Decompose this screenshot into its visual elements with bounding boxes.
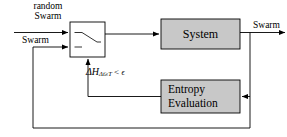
entropy-condition-label: ΔHΔt≥T< ϵ — [86, 67, 125, 78]
random-swarm-label-line2: Swarm — [19, 12, 77, 22]
block-diagram: random Swarm Swarm Swarm System Entropy … — [0, 0, 287, 137]
condition-subscript: Δt≥T — [99, 70, 112, 77]
condition-relation: < — [112, 67, 119, 77]
swarm-input-label: Swarm — [22, 36, 49, 46]
random-swarm-input-label: random Swarm — [19, 2, 77, 22]
entropy-label-line2: Evaluation — [168, 97, 218, 111]
swarm-output-label: Swarm — [253, 21, 280, 31]
entropy-label-line1: Entropy — [168, 83, 205, 97]
entropy-evaluation-block-label: Entropy Evaluation — [161, 80, 240, 113]
switch-block-rect — [70, 22, 105, 57]
random-swarm-label-line1: random — [33, 1, 62, 11]
condition-epsilon: ϵ — [121, 68, 124, 77]
condition-delta-h: ΔH — [86, 66, 99, 77]
system-block-label: System — [161, 19, 240, 49]
